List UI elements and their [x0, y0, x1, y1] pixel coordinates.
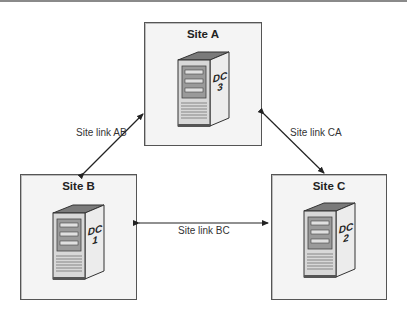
site-link-ab-label: Site link AB: [76, 127, 127, 138]
site-link-ca-label: Site link CA: [290, 127, 342, 138]
site-link-ca-arrow: [264, 114, 324, 173]
site-link-bc-label: Site link BC: [178, 225, 230, 236]
site-link-ab-arrow: [84, 114, 143, 173]
site-link-arrows: [0, 0, 407, 313]
